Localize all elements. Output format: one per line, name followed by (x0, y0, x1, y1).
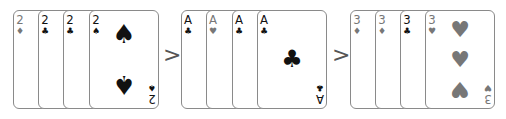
greater-than-sign: > (332, 42, 350, 67)
spade-icon: ♠ (148, 83, 156, 92)
club-icon: ♣ (184, 27, 192, 36)
card-corner: 2 ♣ (66, 13, 74, 36)
card-corner: 3 ♦ (353, 13, 361, 36)
heart-icon: ♥ (209, 27, 217, 36)
card-corner: 2 ♠ (92, 13, 100, 36)
card-rank: 2 (16, 13, 23, 26)
card-corner-bottom: A ♣ (316, 83, 324, 106)
card-2-spades: 2 ♠ ♠ ♠ 2 ♠ (89, 10, 159, 109)
card-rank: 2 (41, 13, 48, 26)
spade-icon: ♠ (112, 21, 135, 47)
club-icon: ♣ (66, 27, 74, 36)
card-rank: 3 (484, 93, 491, 106)
club-icon: ♣ (41, 27, 49, 36)
club-icon: ♣ (403, 27, 411, 36)
club-icon: ♣ (281, 47, 303, 71)
diamond-icon: ♦ (353, 27, 361, 36)
card-corner: A ♥ (209, 13, 217, 36)
diamond-icon: ♦ (378, 27, 386, 36)
spade-icon: ♠ (112, 72, 135, 98)
card-group-3: 3 ♦ 3 ♦ 3 ♣ 3 ♥ ♥ ♥ ♥ 3 ♥ (350, 10, 495, 110)
card-corner: A ♣ (235, 13, 243, 36)
club-icon: ♣ (260, 27, 268, 36)
card-rank: 3 (378, 13, 385, 26)
card-rank: 3 (353, 13, 360, 26)
card-corner: A ♣ (184, 13, 192, 36)
greater-than-sign: > (163, 42, 181, 67)
spade-icon: ♠ (92, 27, 100, 36)
card-corner: 3 ♥ (428, 13, 436, 36)
card-corner: 3 ♦ (378, 13, 386, 36)
heart-icon: ♥ (450, 49, 470, 71)
card-corner: 3 ♣ (403, 13, 411, 36)
card-rank: 2 (148, 93, 155, 106)
club-icon: ♣ (316, 83, 324, 92)
card-rank: 2 (92, 13, 99, 26)
card-rank: A (260, 13, 268, 26)
heart-icon: ♥ (484, 83, 492, 92)
card-rank: 3 (428, 13, 435, 26)
card-corner-bottom: 2 ♠ (148, 83, 156, 106)
card-corner: 2 ♣ (41, 13, 49, 36)
card-corner: 2 ♦ (16, 13, 24, 36)
card-rank: 3 (403, 13, 410, 26)
heart-icon: ♥ (428, 27, 436, 36)
card-corner: A ♣ (260, 13, 268, 36)
heart-icon: ♥ (450, 78, 470, 100)
card-group-1: 2 ♦ 2 ♣ 2 ♣ 2 ♠ ♠ ♠ 2 ♠ (13, 10, 159, 110)
card-group-2: A ♣ A ♥ A ♣ A ♣ ♣ A ♣ (181, 10, 327, 110)
card-ace-clubs: A ♣ ♣ A ♣ (257, 10, 327, 109)
card-rank: 2 (66, 13, 73, 26)
card-rank: A (235, 13, 243, 26)
card-rank: A (184, 13, 192, 26)
card-rank: A (316, 93, 324, 106)
card-corner-bottom: 3 ♥ (484, 83, 492, 106)
diamond-icon: ♦ (16, 27, 24, 36)
heart-icon: ♥ (450, 19, 470, 41)
card-rank: A (209, 13, 217, 26)
card-3-hearts: 3 ♥ ♥ ♥ ♥ 3 ♥ (425, 10, 495, 109)
club-icon: ♣ (235, 27, 243, 36)
